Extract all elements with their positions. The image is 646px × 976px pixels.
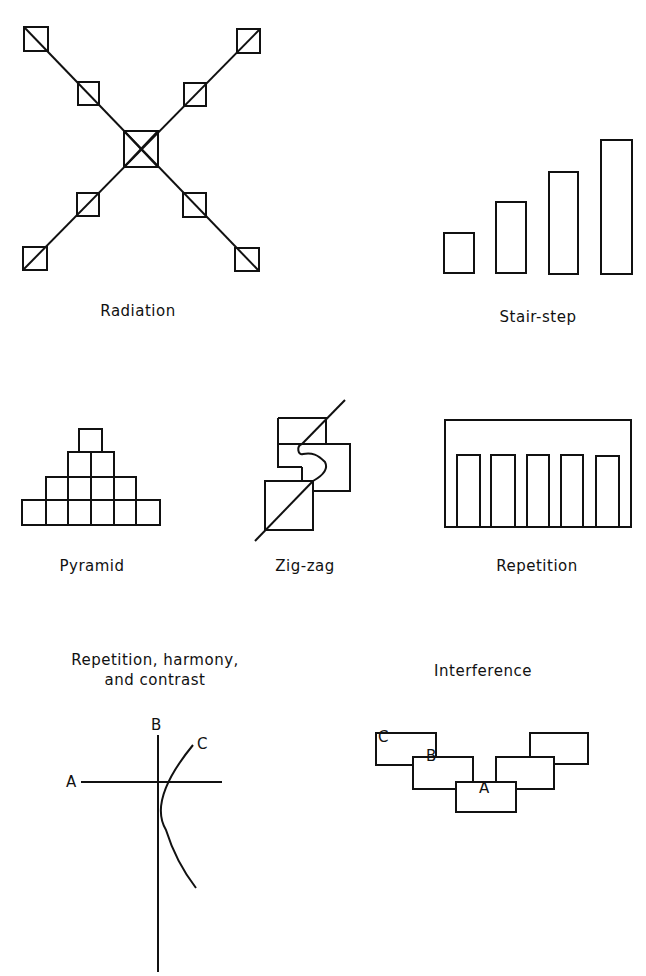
design-principles-diagram — [0, 0, 646, 976]
pyramid-figure — [22, 429, 160, 525]
stair-step-figure — [444, 140, 632, 274]
repetition-harmony-contrast-label-line1: Repetition, harmony, — [71, 651, 239, 669]
cross-letter-a: A — [66, 773, 76, 791]
interference-letter-a: A — [479, 779, 489, 797]
interference-label: Interference — [434, 662, 532, 680]
repetition-label: Repetition — [496, 557, 578, 575]
interference-letter-c: C — [378, 728, 388, 746]
interference-letter-b: B — [426, 747, 436, 765]
radiation-figure — [23, 27, 260, 271]
repetition-harmony-contrast-label-line2: and contrast — [105, 671, 206, 689]
zig-zag-label: Zig-zag — [275, 557, 334, 575]
cross-letter-c: C — [197, 735, 207, 753]
cross-arc-figure — [81, 735, 222, 972]
interference-figure — [376, 733, 588, 812]
radiation-label: Radiation — [100, 302, 175, 320]
pyramid-label: Pyramid — [59, 557, 124, 575]
stair-step-label: Stair-step — [500, 308, 577, 326]
zig-zag-figure — [255, 400, 350, 541]
repetition-figure — [445, 420, 631, 527]
cross-letter-b: B — [151, 716, 161, 734]
